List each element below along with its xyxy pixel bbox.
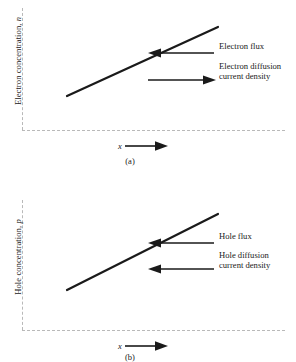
electron-flux-arrow [148, 46, 218, 60]
hole-diffusion-current-label-line1: Hole diffusion [219, 250, 270, 260]
y-axis-label-a: Electron concentration, n [13, 0, 23, 131]
x-axis-line-a [22, 130, 285, 131]
y-axis-label-text-a: Electron concentration, [13, 21, 23, 105]
concentration-line-a [0, 0, 296, 180]
panel-caption-b: (b) [0, 352, 296, 362]
hole-diffusion-current-arrow [148, 262, 218, 276]
x-axis-label-a: x [118, 141, 122, 151]
electron-diffusion-current-arrow [148, 73, 218, 87]
panel-hole: Hole concentration, p Hole flux Hole dif… [0, 180, 296, 360]
x-axis-arrow-b [125, 340, 169, 352]
x-axis-mark-a: x [118, 140, 169, 152]
x-axis-arrow-a [125, 140, 169, 152]
y-axis-label-b: Hole concentration, p [13, 193, 23, 321]
y-axis-label-symbol-a: n [13, 17, 23, 21]
electron-diffusion-current-label-line2: current density [219, 71, 281, 81]
electron-diffusion-current-label-line1: Electron diffusion [219, 61, 281, 71]
x-axis-mark-b: x [118, 340, 169, 352]
hole-diffusion-current-label: Hole diffusion current density [219, 250, 270, 271]
y-axis-label-symbol-b: p [13, 219, 23, 223]
hole-diffusion-current-label-line2: current density [219, 260, 270, 270]
x-axis-line-b [22, 330, 285, 331]
panel-electron: Electron concentration, n Electron flux … [0, 0, 296, 180]
y-axis-label-text-b: Hole concentration, [13, 224, 23, 295]
electron-flux-label: Electron flux [219, 41, 264, 51]
x-axis-label-b: x [118, 341, 122, 351]
electron-diffusion-current-label: Electron diffusion current density [219, 61, 281, 82]
hole-flux-label: Hole flux [219, 231, 252, 241]
panel-caption-a: (a) [0, 156, 296, 166]
hole-flux-arrow [148, 236, 218, 250]
